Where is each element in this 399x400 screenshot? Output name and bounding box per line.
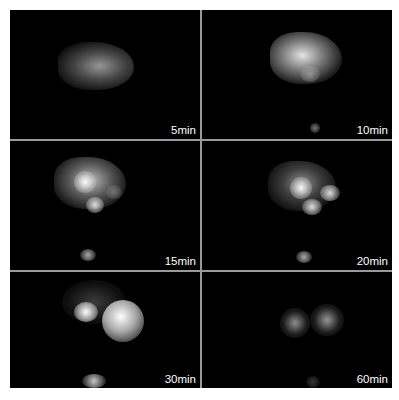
bladder-uptake [82, 374, 106, 388]
time-label: 5min [171, 124, 196, 136]
bladder-uptake [296, 251, 312, 263]
gallbladder-uptake [74, 171, 96, 193]
divider [200, 10, 202, 388]
gallbladder-uptake [74, 302, 98, 322]
time-label: 60min [357, 373, 388, 385]
panel-60min: 60min [202, 272, 392, 388]
bile-duct-uptake [302, 199, 322, 215]
bladder-uptake [80, 249, 96, 261]
bowel-uptake [106, 185, 122, 199]
panel-5min: 5min [10, 10, 200, 139]
panel-10min: 10min [202, 10, 392, 139]
time-label: 15min [165, 255, 196, 267]
time-label: 20min [357, 255, 388, 267]
panel-30min: 30min [10, 272, 200, 388]
bowel-uptake [102, 300, 144, 342]
bladder-uptake [310, 123, 320, 133]
time-label: 30min [165, 373, 196, 385]
bowel-uptake [310, 304, 344, 336]
scintigraphy-figure: 5min 10min 15min 20min 30min [10, 10, 392, 388]
bladder-uptake [306, 376, 320, 388]
bile-duct-uptake [86, 197, 104, 213]
bowel-uptake [320, 185, 340, 201]
bile-duct-uptake [300, 66, 320, 82]
bowel-uptake [280, 308, 310, 338]
panel-15min: 15min [10, 141, 200, 270]
gallbladder-uptake [290, 177, 312, 199]
panel-20min: 20min [202, 141, 392, 270]
liver-uptake [58, 42, 134, 90]
time-label: 10min [357, 124, 388, 136]
